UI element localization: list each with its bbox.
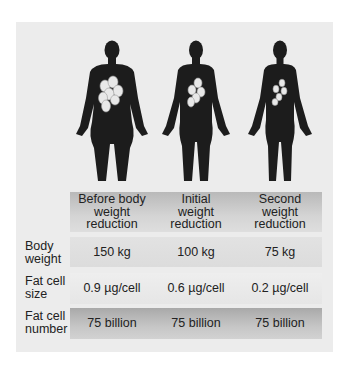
row-label-body-weight: Body weight	[25, 240, 61, 266]
row-label-fat-cell-number: Fat cell number	[25, 310, 67, 336]
figure-before	[72, 36, 152, 186]
label-line: size	[25, 288, 65, 301]
column-header: Initial weight reduction	[154, 192, 238, 232]
table-cell: 75 kg	[238, 237, 322, 267]
figure-panel: Before body weight reduction Initial wei…	[16, 22, 333, 352]
figure-second	[240, 36, 320, 186]
column-header: Second weight reduction	[238, 192, 322, 232]
header-line: reduction	[78, 218, 145, 231]
table-header-row: Before body weight reduction Initial wei…	[70, 192, 322, 232]
row-label-fat-cell-size: Fat cell size	[25, 275, 65, 301]
header-line: Before body	[78, 193, 145, 206]
table-row-fat-cell-size: 0.9 µg/cell 0.6 µg/cell 0.2 µg/cell	[70, 273, 322, 304]
table-cell: 75 billion	[154, 308, 238, 339]
table-cell: 150 kg	[70, 237, 154, 267]
table-row-body-weight: 150 kg 100 kg 75 kg	[70, 237, 322, 267]
header-line: reduction	[170, 218, 221, 231]
label-line: number	[25, 323, 67, 336]
table-cell: 75 billion	[70, 308, 154, 339]
table-row-fat-cell-number: 75 billion 75 billion 75 billion	[70, 308, 322, 339]
table-cell: 0.6 µg/cell	[154, 273, 238, 304]
human-silhouette-icon	[156, 36, 236, 186]
table-cell: 100 kg	[154, 237, 238, 267]
human-silhouette-icon	[72, 36, 152, 186]
header-line: Second	[254, 193, 305, 206]
header-line: reduction	[254, 218, 305, 231]
figure-initial	[156, 36, 236, 186]
human-silhouette-icon	[240, 36, 320, 186]
table-cell: 75 billion	[238, 308, 322, 339]
table-cell: 0.9 µg/cell	[70, 273, 154, 304]
table-cell: 0.2 µg/cell	[238, 273, 322, 304]
column-header: Before body weight reduction	[70, 192, 154, 232]
label-line: weight	[25, 253, 61, 266]
header-line: Initial	[170, 193, 221, 206]
